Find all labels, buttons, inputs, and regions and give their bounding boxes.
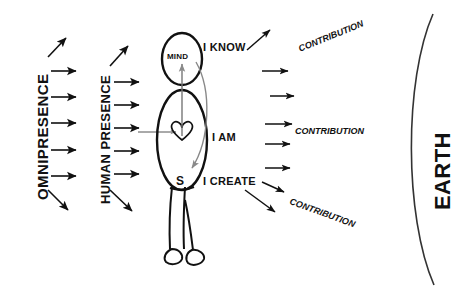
omnipresence-label: OMNIPRESENCE [34,74,51,201]
omnipresence-arrow-group [48,38,76,210]
i-create-label: I CREATE [203,175,256,187]
foot-right [186,250,204,265]
contribution-middle-label: CONTRIBUTION [295,126,364,136]
earth-label: EARTH [430,132,456,210]
i-am-label: I AM [212,131,236,143]
omnipresence-arrow-diagonal-down [48,190,68,210]
leg-right-outer [185,200,193,250]
soul-label: S [176,174,184,188]
foot-left [165,249,183,264]
diagram-canvas: OMNIPRESENCE HUMAN PRESENCE MIND S I KNO… [0,0,459,294]
i-know-label: I KNOW [203,41,246,53]
leg-left-outer [170,187,172,249]
human-presence-label: HUMAN PRESENCE [98,75,113,204]
contribution-arrow-down-2 [245,190,275,212]
mind-label: MIND [167,52,188,61]
omnipresence-arrow-diagonal-up [48,38,66,57]
contribution-arrow-down-1 [262,182,284,192]
human-presence-arrow-diagonal-down [110,190,132,211]
leg-left-inner [184,187,185,249]
human-presence-arrow-group [110,46,139,211]
human-presence-arrow-diagonal-up [110,46,128,66]
contribution-arrow-up [247,30,270,50]
